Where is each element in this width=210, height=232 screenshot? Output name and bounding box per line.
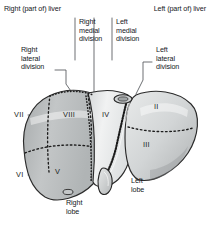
label-right-part-of-liver: Right (part of) liver — [4, 5, 61, 14]
segment-label-ii: II — [154, 103, 159, 111]
segment-label-vi: VI — [16, 171, 23, 179]
inferior-notch — [63, 189, 73, 194]
leader-left-lateral — [136, 62, 152, 94]
label-right-medial-division: Right medial division — [79, 18, 102, 44]
segment-label-vii: VII — [14, 111, 24, 119]
gallbladder — [98, 168, 112, 195]
label-right-lobe: Right lobe — [66, 199, 82, 216]
label-left-medial-division: Left medial division — [116, 18, 139, 44]
label-right-lateral-division: Right lateral division — [21, 46, 44, 72]
label-left-part-of-liver: Left (part of) liver — [154, 5, 206, 14]
label-left-lobe: Left lobe — [131, 177, 144, 194]
label-left-lateral-division: Left lateral division — [156, 46, 179, 72]
segment-label-v: V — [55, 168, 60, 176]
segment-label-viii: VIII — [63, 111, 75, 119]
segment-label-iv: IV — [102, 111, 109, 119]
vessel-stump — [114, 95, 132, 103]
segment-label-iii: III — [143, 141, 150, 149]
liver-anatomy-figure: Right (part of) liver Left (part of) liv… — [0, 0, 210, 232]
